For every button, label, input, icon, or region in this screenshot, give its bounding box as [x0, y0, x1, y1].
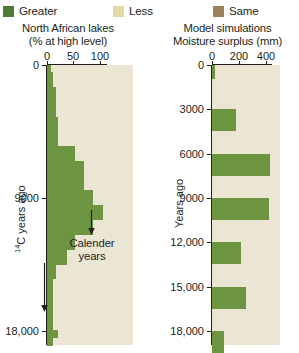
y-tick-label-right-18000: 18,000 — [165, 326, 204, 337]
annotation-line1: Calender — [69, 237, 114, 249]
y-axis-title-right: Years ago — [174, 179, 185, 228]
legend-item-less: Less — [113, 2, 153, 20]
legend-label-less: Less — [129, 6, 153, 17]
chart-title-right-line1: Model simulations — [184, 22, 272, 34]
y-tick-label-right-3000: 3000 — [173, 104, 204, 115]
legend-item-same: Same — [213, 2, 259, 20]
y-tick-mark-right-6000 — [207, 154, 211, 155]
legend-label-same: Same — [229, 6, 259, 17]
y-tick-label-right-0: 0 — [185, 60, 204, 71]
y-axis-title-right-text: Years ago — [173, 179, 185, 228]
plot-area-north-african-lakes — [47, 65, 133, 345]
bar-model-6000 — [212, 154, 270, 176]
x-tick-mark-right-0 — [212, 61, 213, 64]
plot-area-model-simulations — [212, 65, 280, 345]
legend: Greater Less Same — [0, 0, 299, 18]
y-tick-label-right-6000: 6000 — [173, 149, 204, 160]
bar-lakes-18500 — [47, 338, 53, 346]
legend-swatch-same-icon — [213, 6, 224, 17]
x-tick-mark-right-200 — [239, 61, 240, 64]
annotation-arrow-down-lower-icon — [39, 263, 50, 313]
y-tick-mark-0 — [42, 65, 46, 66]
chart-title-line1: North African lakes — [22, 22, 114, 34]
bar-model-0 — [212, 65, 215, 79]
annotation-line2: years — [78, 250, 105, 262]
bar-model-3000 — [212, 109, 236, 131]
y-tick-mark-right-0 — [207, 65, 211, 66]
chart-title-model-simulations: Model simulations Moisture surplus (mm) — [158, 22, 297, 48]
x-tick-mark-right-400 — [266, 61, 267, 64]
bar-model-12000 — [212, 242, 241, 264]
legend-item-greater: Greater — [3, 2, 57, 20]
y-tick-label-right-12000: 12,000 — [165, 237, 204, 248]
y-tick-mark-right-9000 — [207, 198, 211, 199]
legend-swatch-less-icon — [113, 6, 124, 17]
y-tick-mark-9000 — [42, 198, 46, 199]
y-tick-label-18000: 18,000 — [0, 326, 39, 337]
y-tick-mark-right-15000 — [207, 287, 211, 288]
y-axis-title-text: C years ago — [15, 185, 27, 244]
chart-title-right-line2: Moisture surplus (mm) — [158, 35, 297, 48]
annotation-arrow-down-upper-icon — [86, 210, 97, 236]
x-tick-mark-100 — [100, 61, 101, 64]
y-axis-title-left: 14C years ago — [12, 185, 27, 253]
chart-title-line2: (% at high level) — [0, 35, 148, 48]
y-axis-title-superscript: 14 — [13, 245, 22, 253]
x-tick-mark-50 — [73, 61, 74, 64]
y-tick-label-right-15000: 15,000 — [165, 282, 204, 293]
legend-swatch-greater-icon — [3, 6, 14, 17]
bar-model-18000 — [212, 331, 224, 353]
annotation-calender-years: Calender years — [62, 237, 122, 263]
y-tick-label-0: 0 — [20, 60, 39, 71]
bar-model-15000 — [212, 287, 246, 309]
bar-model-9000 — [212, 198, 269, 220]
y-tick-mark-right-3000 — [207, 109, 211, 110]
y-tick-mark-18000 — [42, 331, 46, 332]
y-tick-mark-right-12000 — [207, 242, 211, 243]
x-tick-mark-0 — [47, 61, 48, 64]
legend-label-greater: Greater — [19, 6, 57, 17]
y-tick-mark-right-18000 — [207, 331, 211, 332]
chart-title-north-african-lakes: North African lakes (% at high level) — [0, 22, 148, 48]
y-axis-line-right — [211, 65, 212, 345]
